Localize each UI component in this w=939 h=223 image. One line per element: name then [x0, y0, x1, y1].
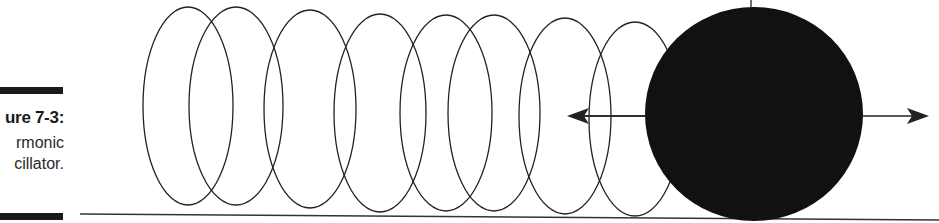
ball — [645, 7, 863, 221]
spring-coil — [448, 15, 540, 211]
spring — [143, 7, 681, 216]
spring-coil — [334, 14, 426, 212]
spring-coil — [264, 10, 356, 208]
spring-coil — [143, 7, 233, 205]
spring-coil — [189, 7, 283, 205]
spring-coil — [400, 15, 492, 211]
oscillator-diagram — [0, 0, 939, 223]
ground-line — [80, 214, 939, 220]
